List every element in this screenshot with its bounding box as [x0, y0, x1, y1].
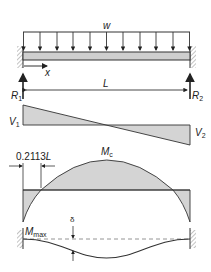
- moment-negative-left: [23, 190, 41, 222]
- deflected-shape: [23, 239, 190, 258]
- deflection-label: δ: [70, 215, 75, 224]
- right-wall-hatch: [190, 46, 196, 68]
- moment-negative-right: [173, 190, 190, 222]
- left-wall-hatch: [17, 46, 23, 68]
- deflection-diagram: Mmax δ: [17, 215, 196, 261]
- reaction-r1-label: R1: [11, 90, 22, 102]
- moment-diagram: 0.2113L Mc: [9, 146, 190, 222]
- x-axis-label: x: [44, 67, 51, 78]
- shear-diagram: V1 V2: [9, 105, 206, 145]
- moment-positive-area: [41, 160, 173, 190]
- beam-diagram: w x R1 R2 L V1 V2 0.2113L Mc: [0, 0, 211, 272]
- defl-left-wall-hatch: [17, 230, 23, 248]
- inflection-label: 0.2113L: [16, 151, 51, 162]
- span-label: L: [103, 78, 109, 89]
- defl-right-wall-hatch: [190, 230, 196, 248]
- shear-positive-area: [23, 105, 106, 125]
- loaded-beam: w x R1 R2 L: [11, 20, 203, 102]
- shear-v1-label: V1: [9, 116, 20, 128]
- reaction-r2-label: R2: [192, 90, 203, 102]
- shear-negative-area: [106, 125, 190, 145]
- beam: [23, 52, 190, 60]
- moment-max-label: Mmax: [25, 226, 47, 238]
- moment-center-label: Mc: [101, 146, 113, 158]
- load-label: w: [103, 20, 111, 31]
- load-arrows: [24, 32, 190, 50]
- shear-v2-label: V2: [195, 127, 206, 139]
